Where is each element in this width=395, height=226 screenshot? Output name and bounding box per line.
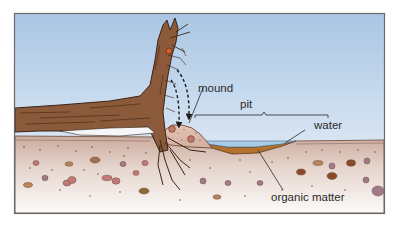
label-pit: pit — [240, 98, 253, 110]
label-mound: mound — [198, 82, 233, 94]
mound-stone — [188, 136, 195, 143]
tree-throw-diagram: mound pit water organic matter — [0, 0, 395, 226]
label-organic-matter: organic matter — [271, 191, 345, 203]
mound-stone — [169, 126, 176, 133]
label-water: water — [313, 119, 342, 131]
trunk-knot — [166, 48, 172, 54]
